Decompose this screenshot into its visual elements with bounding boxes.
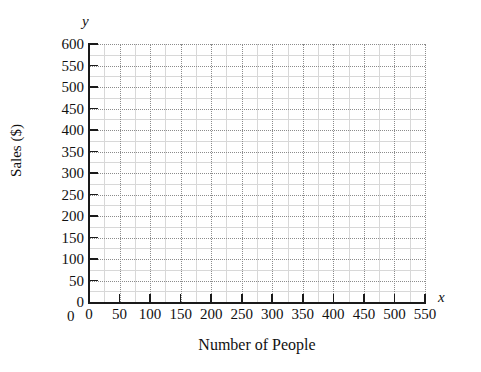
y-axis-tick bbox=[89, 86, 98, 88]
gridline-major-vertical bbox=[333, 44, 334, 302]
y-axis-tick bbox=[89, 194, 98, 196]
gridline-major-vertical bbox=[303, 44, 304, 302]
y-axis-tick bbox=[89, 129, 98, 131]
gridline-major-horizontal bbox=[89, 109, 425, 110]
gridline-major-horizontal bbox=[89, 173, 425, 174]
x-axis-letter: x bbox=[438, 290, 445, 305]
gridline-major-horizontal bbox=[89, 281, 425, 282]
y-axis-tick-label: 150 bbox=[44, 231, 84, 246]
x-axis-line bbox=[88, 302, 426, 304]
x-axis-tick-label: 550 bbox=[403, 307, 447, 322]
y-axis-tick-label: 450 bbox=[44, 102, 84, 117]
x-axis-tick bbox=[241, 294, 243, 303]
x-axis-tick bbox=[119, 294, 121, 303]
gridline-major-vertical bbox=[394, 44, 395, 302]
y-axis-tick bbox=[89, 258, 98, 260]
x-axis-tick bbox=[363, 294, 365, 303]
gridline-major-horizontal bbox=[89, 152, 425, 153]
gridline-major-vertical bbox=[150, 44, 151, 302]
y-axis-tick bbox=[89, 172, 98, 174]
y-axis-tick-label: 600 bbox=[44, 37, 84, 52]
y-axis-tick bbox=[89, 151, 98, 153]
x-axis-tick bbox=[302, 294, 304, 303]
y-axis-tick-label: 500 bbox=[44, 80, 84, 95]
x-axis-tick bbox=[149, 294, 151, 303]
gridline-major-vertical bbox=[211, 44, 212, 302]
gridline-major-horizontal bbox=[89, 87, 425, 88]
plot-area bbox=[89, 44, 425, 302]
y-axis-title: Sales ($) bbox=[8, 91, 25, 211]
y-axis-tick bbox=[89, 43, 98, 45]
y-axis-tick bbox=[89, 237, 98, 239]
x-axis-tick bbox=[180, 294, 182, 303]
y-axis-tick-label: 400 bbox=[44, 123, 84, 138]
gridline-major-horizontal bbox=[89, 195, 425, 196]
x-axis-title: Number of People bbox=[88, 336, 426, 354]
x-axis-tick bbox=[424, 294, 426, 303]
gridline-major-vertical bbox=[242, 44, 243, 302]
y-axis-tick-label: 100 bbox=[44, 252, 84, 267]
sales-vs-people-graph: y x Sales ($) Number of People 050100150… bbox=[0, 0, 481, 372]
gridline-major-vertical bbox=[272, 44, 273, 302]
y-axis-tick-label: 550 bbox=[44, 59, 84, 74]
origin-zero-label: 0 bbox=[67, 309, 75, 324]
y-axis-tick-label: 200 bbox=[44, 209, 84, 224]
x-axis-tick bbox=[394, 294, 396, 303]
x-axis-tick bbox=[333, 294, 335, 303]
gridline-major-vertical bbox=[181, 44, 182, 302]
gridline-major-vertical bbox=[120, 44, 121, 302]
y-axis-tick bbox=[89, 280, 98, 282]
gridline-major-horizontal bbox=[89, 216, 425, 217]
y-axis-tick-label: 350 bbox=[44, 145, 84, 160]
y-axis-tick bbox=[89, 65, 98, 67]
y-axis-tick bbox=[89, 215, 98, 217]
x-axis-tick bbox=[210, 294, 212, 303]
x-axis-tick bbox=[271, 294, 273, 303]
gridline-major-horizontal bbox=[89, 238, 425, 239]
gridline-major-horizontal bbox=[89, 130, 425, 131]
gridline-major-vertical bbox=[425, 44, 426, 302]
y-axis-tick-label: 50 bbox=[44, 274, 84, 289]
y-axis-tick-label: 250 bbox=[44, 188, 84, 203]
y-axis-tick bbox=[89, 108, 98, 110]
gridline-major-horizontal bbox=[89, 259, 425, 260]
gridline-major-horizontal bbox=[89, 44, 425, 45]
gridline-major-vertical bbox=[364, 44, 365, 302]
gridline-major-horizontal bbox=[89, 66, 425, 67]
y-axis-tick-label: 300 bbox=[44, 166, 84, 181]
